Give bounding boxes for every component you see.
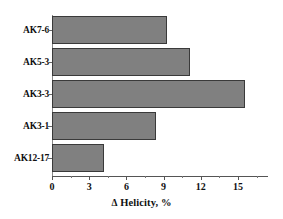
x-axis-title-text: Helicity, %	[118, 197, 172, 208]
bar-chart: AK7-6 AK5-3 AK3-3 AK3-1 AK12-17	[0, 0, 283, 219]
plot-area	[52, 15, 269, 176]
x-tick-major	[126, 176, 127, 180]
x-tick-major	[164, 176, 165, 180]
x-tick-minor	[219, 176, 220, 178]
x-tick-major	[89, 176, 90, 180]
x-axis-title: Δ Helicity, %	[0, 197, 283, 208]
x-tick-major	[52, 176, 53, 180]
category-label-3: AK3-1	[0, 121, 49, 131]
bar-ak7-6	[52, 16, 167, 44]
category-label-0: AK7-6	[0, 25, 49, 35]
x-tick-label: 9	[161, 181, 166, 192]
category-label-text: AK3-3	[23, 89, 49, 99]
x-tick-minor	[71, 176, 72, 178]
x-tick-major	[201, 176, 202, 180]
category-label-1: AK5-3	[0, 57, 49, 67]
bar-ak12-17	[52, 144, 104, 172]
x-tick-minor	[145, 176, 146, 178]
category-label-text: AK3-1	[23, 121, 49, 131]
bar-ak5-3	[52, 48, 190, 76]
category-label-4: AK12-17	[0, 153, 49, 163]
x-tick-major	[238, 176, 239, 180]
x-tick-label: 6	[124, 181, 129, 192]
x-tick-minor	[182, 176, 183, 178]
category-label-text: AK12-17	[14, 153, 49, 163]
bar-ak3-3	[52, 80, 245, 108]
bar-ak3-1	[52, 112, 156, 140]
x-tick-label: 12	[196, 181, 206, 192]
category-label-text: AK7-6	[23, 25, 49, 35]
x-tick-minor	[108, 176, 109, 178]
x-tick-label: 15	[233, 181, 243, 192]
category-label-text: AK5-3	[23, 57, 49, 67]
x-tick-minor	[257, 176, 258, 178]
x-tick-label: 3	[87, 181, 92, 192]
x-axis-line	[52, 176, 268, 177]
x-tick-label: 0	[50, 181, 55, 192]
category-label-2: AK3-3	[0, 89, 49, 99]
